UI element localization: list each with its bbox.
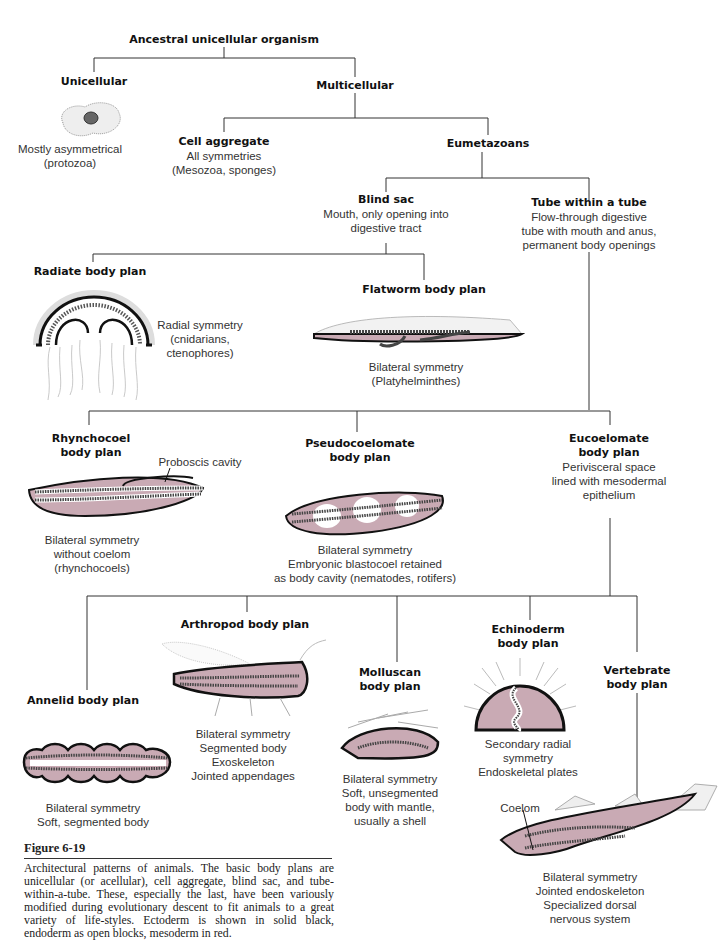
vertebrate-illustration xyxy=(495,780,720,865)
node-arthropod-title: Arthropod body plan xyxy=(181,618,309,632)
node-echinoderm-title: Echinoderm xyxy=(491,623,564,637)
node-eucoelomate: Eucoelomate body plan Perivisceral space… xyxy=(552,432,666,502)
desc-line: Perivisceral space xyxy=(552,460,666,474)
proboscis-cavity-label: Proboscis cavity xyxy=(158,455,241,469)
node-eumetazoans: Eumetazoans xyxy=(447,137,530,151)
desc-line: permanent body openings xyxy=(522,238,657,252)
node-molluscan-desc: Bilateral symmetry Soft, unsegmented bod… xyxy=(342,772,439,828)
node-echinoderm-title: body plan xyxy=(491,637,564,651)
node-arthropod: Arthropod body plan xyxy=(181,618,309,632)
connector-multicellular xyxy=(224,93,488,135)
node-cell-aggregate: Cell aggregate All symmetries (Mesozoa, … xyxy=(172,135,276,177)
connector-root xyxy=(94,47,355,77)
desc-line: as body cavity (nematodes, rotifers) xyxy=(274,571,456,585)
node-echinoderm: Echinoderm body plan xyxy=(491,623,564,651)
desc-line: Mostly asymmetrical xyxy=(18,142,122,156)
node-rhynchocoel-title: body plan xyxy=(52,446,131,460)
desc-line: Bilateral symmetry xyxy=(37,801,149,815)
figure-caption: Architectural patterns of animals. The b… xyxy=(24,862,334,940)
desc-line: lined with mesodermal xyxy=(552,474,666,488)
desc-line: Segmented body xyxy=(191,741,295,755)
desc-line: Soft, segmented body xyxy=(37,815,149,829)
node-annelid: Annelid body plan xyxy=(27,694,139,708)
node-pseudocoelomate-title: Pseudocoelomate xyxy=(305,437,415,451)
desc-line: Bilateral symmetry xyxy=(536,870,645,884)
desc-line: (Platyhelminthes) xyxy=(369,374,464,388)
node-flatworm-desc: Bilateral symmetry (Platyhelminthes) xyxy=(369,360,464,388)
node-blind-sac: Blind sac Mouth, only opening into diges… xyxy=(323,193,448,235)
node-root-title: Ancestral unicellular organism xyxy=(129,33,319,47)
desc-line: Bilateral symmetry xyxy=(274,543,456,557)
node-flatworm: Flatworm body plan xyxy=(362,283,486,297)
radiate-illustration xyxy=(30,285,160,405)
node-rhynchocoel: Rhynchocoel body plan xyxy=(52,432,131,460)
node-radiate-title: Radiate body plan xyxy=(34,265,147,279)
desc-line: Jointed appendages xyxy=(191,769,295,783)
desc-line: Exoskeleton xyxy=(191,755,295,769)
desc-line: nervous system xyxy=(536,912,645,926)
desc-line: Jointed endoskeleton xyxy=(536,884,645,898)
node-radiate: Radiate body plan xyxy=(34,265,147,279)
molluscan-illustration xyxy=(338,708,448,768)
node-vertebrate-title: body plan xyxy=(604,678,671,692)
desc-line: Bilateral symmetry xyxy=(191,727,295,741)
desc-line: usually a shell xyxy=(342,814,439,828)
node-vertebrate: Vertebrate body plan xyxy=(604,664,671,692)
node-pseudocoelomate: Pseudocoelomate body plan xyxy=(305,437,415,465)
desc-line: Bilateral symmetry xyxy=(369,360,464,374)
node-vertebrate-title: Vertebrate xyxy=(604,664,671,678)
node-echinoderm-desc: Secondary radial symmetry Endoskeletal p… xyxy=(478,737,578,779)
node-flatworm-title: Flatworm body plan xyxy=(362,283,486,297)
node-unicellular-title: Unicellular xyxy=(61,75,128,89)
node-molluscan-title: Molluscan xyxy=(359,666,421,680)
desc-line: symmetry xyxy=(478,751,578,765)
node-tube-within-tube: Tube within a tube Flow-through digestiv… xyxy=(522,196,657,252)
desc-line: Bilateral symmetry xyxy=(45,533,140,547)
figure-title: Figure 6-19 xyxy=(24,841,332,859)
desc-line: ctenophores) xyxy=(157,346,243,360)
node-eucoelomate-title: body plan xyxy=(552,446,666,460)
node-pseudocoelomate-title: body plan xyxy=(305,451,415,465)
node-tube-title: Tube within a tube xyxy=(522,196,657,210)
node-arthropod-desc: Bilateral symmetry Segmented body Exoske… xyxy=(191,727,295,783)
desc-line: Soft, unsegmented xyxy=(342,786,439,800)
mesoderm-shape xyxy=(314,334,522,341)
desc-line: Mouth, only opening into xyxy=(323,207,448,221)
node-unicellular-desc: Mostly asymmetrical (protozoa) xyxy=(18,142,122,170)
arthropod-illustration xyxy=(160,638,330,718)
desc-line: tube with mouth and anus, xyxy=(522,224,657,238)
node-radiate-desc: Radial symmetry (cnidarians, ctenophores… xyxy=(157,318,243,360)
desc-line: Radial symmetry xyxy=(157,318,243,332)
desc-line: Embryonic blastocoel retained xyxy=(274,557,456,571)
node-unicellular: Unicellular xyxy=(61,75,128,89)
flatworm-illustration xyxy=(310,310,525,355)
desc-line: body with mantle, xyxy=(342,800,439,814)
node-molluscan: Molluscan body plan xyxy=(359,666,421,694)
node-vertebrate-desc: Bilateral symmetry Jointed endoskeleton … xyxy=(536,870,645,926)
desc-line: (Mesozoa, sponges) xyxy=(172,163,276,177)
node-cell-aggregate-title: Cell aggregate xyxy=(172,135,276,149)
desc-line: (cnidarians, xyxy=(157,332,243,346)
node-root: Ancestral unicellular organism xyxy=(129,33,319,47)
node-pseudocoelomate-desc: Bilateral symmetry Embryonic blastocoel … xyxy=(274,543,456,585)
node-rhynchocoel-desc: Bilateral symmetry without coelom (rhync… xyxy=(45,533,140,575)
node-annelid-desc: Bilateral symmetry Soft, segmented body xyxy=(37,801,149,829)
annelid-illustration xyxy=(20,740,175,790)
desc-line: Endoskeletal plates xyxy=(478,765,578,779)
desc-line: without coelom xyxy=(45,547,140,561)
node-eumetazoans-title: Eumetazoans xyxy=(447,137,530,151)
desc-line: Specialized dorsal xyxy=(536,898,645,912)
node-multicellular-title: Multicellular xyxy=(316,79,394,93)
rhynchocoel-illustration xyxy=(25,468,210,528)
node-molluscan-title: body plan xyxy=(359,680,421,694)
node-multicellular: Multicellular xyxy=(316,79,394,93)
node-annelid-title: Annelid body plan xyxy=(27,694,139,708)
desc-line: Bilateral symmetry xyxy=(342,772,439,786)
desc-line: (protozoa) xyxy=(18,156,122,170)
desc-line: digestive tract xyxy=(323,221,448,235)
pseudocoelomate-illustration xyxy=(282,488,448,538)
desc-line: (rhynchocoels) xyxy=(45,561,140,575)
echinoderm-illustration xyxy=(460,658,580,733)
annotation: Proboscis cavity xyxy=(158,455,241,469)
node-rhynchocoel-title: Rhynchocoel xyxy=(52,432,131,446)
